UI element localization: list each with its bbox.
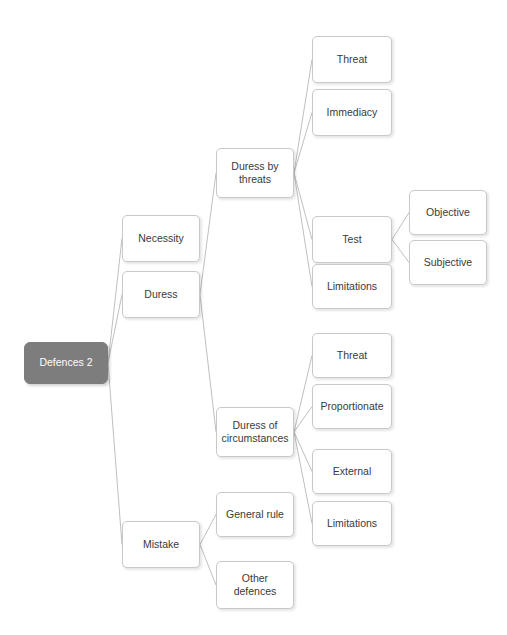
node-test-subjective[interactable]: Subjective xyxy=(409,240,487,285)
connector-duress-circ-to-doc-threat xyxy=(294,356,312,433)
connector-duress-to-duress-circ xyxy=(200,295,216,433)
connector-mistake-to-mis-other xyxy=(200,545,216,586)
node-test-objective[interactable]: Objective xyxy=(409,190,487,235)
node-duress-threats[interactable]: Duress by threats xyxy=(216,148,294,198)
node-duress[interactable]: Duress xyxy=(122,271,200,318)
connector-lines xyxy=(0,0,507,635)
connector-root-to-duress xyxy=(108,295,122,364)
connector-duress-circ-to-doc-limits xyxy=(294,432,312,524)
connector-dbt-test-to-test-objective xyxy=(392,213,409,240)
node-doc-threat[interactable]: Threat xyxy=(312,333,392,378)
node-mis-general[interactable]: General rule xyxy=(216,492,294,537)
node-root[interactable]: Defences 2 xyxy=(24,342,108,384)
connector-duress-threats-to-dbt-test xyxy=(294,173,312,240)
node-dbt-immediacy[interactable]: Immediacy xyxy=(312,89,392,136)
node-dbt-test[interactable]: Test xyxy=(312,216,392,263)
connector-duress-threats-to-dbt-threat xyxy=(294,60,312,174)
connector-duress-threats-to-dbt-limits xyxy=(294,173,312,287)
connector-dbt-test-to-test-subjective xyxy=(392,240,409,263)
diagram-canvas: Defences 2NecessityDuressMistakeDuress b… xyxy=(0,0,507,635)
node-doc-proportion[interactable]: Proportionate xyxy=(312,384,392,429)
node-doc-limits[interactable]: Limitations xyxy=(312,501,392,546)
node-mis-other[interactable]: Other defences xyxy=(216,561,294,609)
node-dbt-threat[interactable]: Threat xyxy=(312,36,392,83)
connector-root-to-mistake xyxy=(108,363,122,545)
connector-mistake-to-mis-general xyxy=(200,515,216,545)
connector-duress-circ-to-doc-external xyxy=(294,432,312,472)
connector-root-to-necessity xyxy=(108,239,122,364)
node-dbt-limits[interactable]: Limitations xyxy=(312,264,392,309)
node-necessity[interactable]: Necessity xyxy=(122,215,200,262)
connector-duress-threats-to-dbt-immediacy xyxy=(294,113,312,174)
node-doc-external[interactable]: External xyxy=(312,449,392,494)
connector-duress-circ-to-doc-proportion xyxy=(294,407,312,433)
connector-duress-to-duress-threats xyxy=(200,173,216,295)
node-duress-circ[interactable]: Duress of circumstances xyxy=(216,407,294,457)
node-mistake[interactable]: Mistake xyxy=(122,521,200,568)
